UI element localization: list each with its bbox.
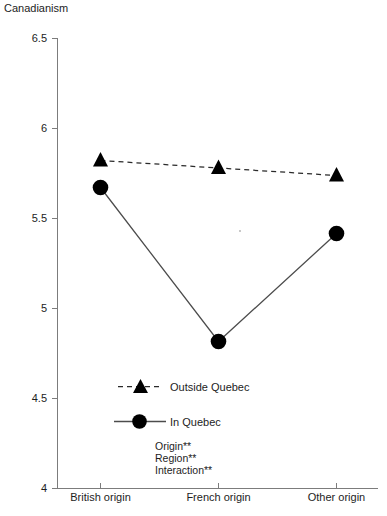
legend-label-in-quebec: In Quebec xyxy=(170,416,221,428)
note-region: Region** xyxy=(155,452,196,464)
legend-item-in-quebec: In Quebec xyxy=(114,414,221,429)
legend-label-outside-quebec: Outside Quebec xyxy=(170,381,250,393)
y-tick-label-6: 6 xyxy=(41,122,47,134)
series-line-in-quebec xyxy=(101,188,337,342)
note-origin: Origin** xyxy=(155,440,191,452)
data-point-in-quebec-british xyxy=(93,180,109,196)
y-tick-label-5-5: 5.5 xyxy=(32,212,47,224)
scan-artifact-speck xyxy=(239,230,241,232)
data-point-outside-quebec-other xyxy=(329,167,344,182)
y-axis-ticks xyxy=(52,39,58,489)
x-tick-label-french-origin: French origin xyxy=(186,491,250,503)
y-tick-label-4-5: 4.5 xyxy=(32,392,47,404)
y-tick-label-6-5: 6.5 xyxy=(32,32,47,44)
data-point-outside-quebec-french xyxy=(211,160,226,175)
data-point-in-quebec-other xyxy=(329,226,345,242)
x-axis-ticks xyxy=(101,483,337,489)
y-tick-label-4: 4 xyxy=(41,482,47,494)
legend-item-outside-quebec: Outside Quebec xyxy=(118,379,250,393)
x-tick-label-other-origin: Other origin xyxy=(308,491,365,503)
x-tick-label-british-origin: British origin xyxy=(70,491,131,503)
note-interaction: Interaction** xyxy=(155,464,212,476)
chart-legend: Outside Quebec In Quebec xyxy=(114,379,250,429)
circle-marker-icon xyxy=(132,414,147,429)
line-chart-plot: 6.5 6 5.5 5 4.5 4 British origin French … xyxy=(0,0,387,516)
y-tick-label-5: 5 xyxy=(41,302,47,314)
significance-notes: Origin** Region** Interaction** xyxy=(155,440,212,476)
chart-container: Canadianism 6.5 6 5.5 5 4.5 4 xyxy=(0,0,387,516)
data-point-outside-quebec-british xyxy=(93,152,108,167)
data-point-in-quebec-french xyxy=(211,334,227,350)
